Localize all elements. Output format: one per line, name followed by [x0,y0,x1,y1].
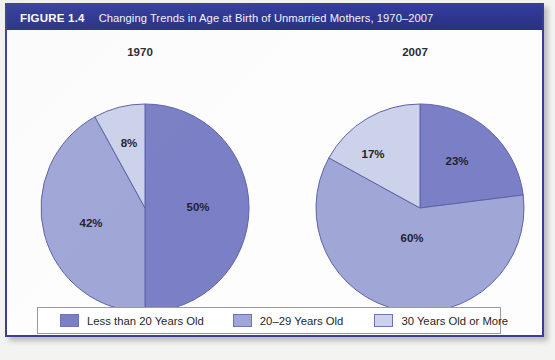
figure-frame: FIGURE 1.4 Changing Trends in Age at Bir… [5,3,544,337]
legend-swatch-less-than-20 [60,314,79,327]
legend-item-20-to-29[interactable]: 20–29 Years Old [233,314,344,327]
pie-slice-value-label: 23% [445,155,468,167]
pie-slice-value-label: 42% [79,217,102,229]
figure-header-band: FIGURE 1.4 Changing Trends in Age at Bir… [7,5,542,30]
scanned-page-background: FIGURE 1.4 Changing Trends in Age at Bir… [0,0,555,360]
chart-area: 1970 2007 50%42%8% 23%60%17% Less than 2… [7,30,542,335]
pie-slice [420,104,523,208]
pie-slice-value-label: 8% [121,137,138,149]
legend-item-30-or-more[interactable]: 30 Years Old or More [374,314,508,327]
chart-year-label-2007: 2007 [375,46,455,58]
legend: Less than 20 Years Old 20–29 Years Old 3… [37,307,501,334]
legend-item-less-than-20[interactable]: Less than 20 Years Old [60,314,204,327]
figure-title: Changing Trends in Age at Birth of Unmar… [99,12,434,24]
pie-chart-2007: 23%60%17% [311,74,529,286]
legend-swatch-20-to-29 [233,314,252,327]
pie-slice-value-label: 50% [186,201,209,213]
figure-number-label: FIGURE 1.4 [20,12,85,24]
legend-label-less-than-20: Less than 20 Years Old [87,315,204,327]
legend-swatch-30-or-more [374,314,393,327]
pie-slice-value-label: 60% [400,232,423,244]
pie-slice-value-label: 17% [361,148,384,160]
chart-year-label-1970: 1970 [100,46,180,58]
legend-label-30-or-more: 30 Years Old or More [401,315,508,327]
pie-chart-1970: 50%42%8% [36,74,254,286]
legend-label-20-to-29: 20–29 Years Old [260,315,344,327]
